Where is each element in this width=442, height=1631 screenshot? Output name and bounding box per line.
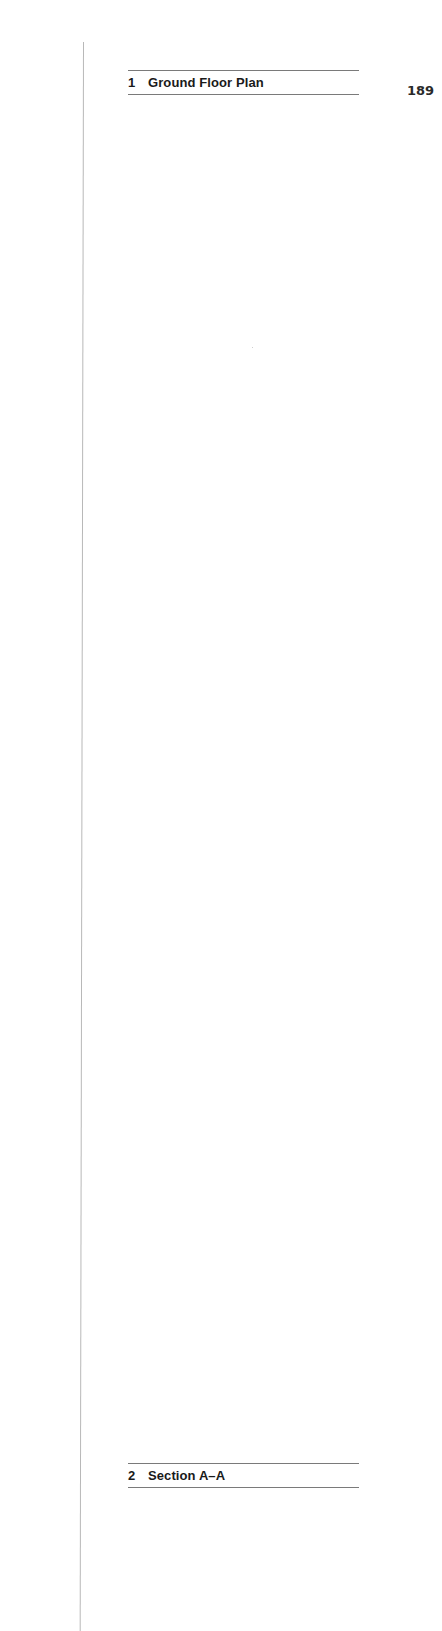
figure-number: 1 — [128, 75, 148, 90]
figure-number: 2 — [128, 1468, 148, 1483]
figure-caption-1: 1 Ground Floor Plan — [128, 70, 359, 95]
figure-title: Section A–A — [148, 1468, 225, 1483]
figure-caption-2: 2 Section A–A — [128, 1463, 359, 1488]
figure-title: Ground Floor Plan — [148, 75, 264, 90]
gutter-divider-line — [80, 42, 84, 1631]
scan-speck — [252, 347, 253, 348]
page-number: 189 — [407, 83, 434, 98]
